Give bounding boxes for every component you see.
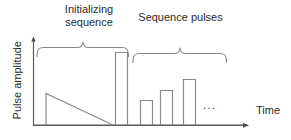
waveform-sequence-pulse-2 <box>161 91 173 126</box>
y-axis-label: Pulse amplitude <box>11 37 24 123</box>
waveform-sequence-pulse-3 <box>184 80 196 126</box>
y-axis <box>31 37 35 126</box>
label-sequence-pulses: Sequence pulses <box>133 11 228 24</box>
brace-initializing-sequence <box>37 43 129 57</box>
label-initializing-sequence: Initializing sequence <box>51 3 127 28</box>
pulse-sequence-diagram: Initializing sequence Sequence pulses Ti… <box>0 0 291 140</box>
ellipsis-marker: ... <box>203 99 216 112</box>
waveform-initializing-ramp <box>46 94 113 126</box>
brace-sequence-pulses <box>133 49 227 63</box>
x-axis-label: Time <box>256 104 280 117</box>
waveform-tall-pulse <box>116 53 128 126</box>
waveform-sequence-pulse-1 <box>141 101 153 126</box>
